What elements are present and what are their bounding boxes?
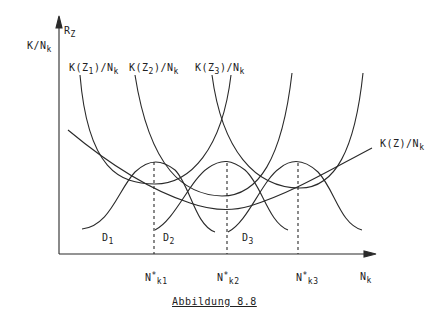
curve-label-envelope-sub: k xyxy=(419,143,424,152)
curve-label-z2-pre: K(Z xyxy=(129,62,149,73)
x-axis-arrow-icon xyxy=(364,251,376,257)
demand-label-d3: D3 xyxy=(242,233,254,246)
tick-label-nk1: N*k1 xyxy=(145,272,168,286)
curve-label-z1-pre: K(Z xyxy=(69,62,89,73)
demand-label-d3-sub: 3 xyxy=(249,237,254,246)
y-axis-label-main: K/Nk xyxy=(27,41,52,54)
x-label-sub: k xyxy=(367,276,372,285)
figure-caption: Abbildung 8.8 xyxy=(172,297,257,307)
tick-label-nk3: N*k3 xyxy=(296,272,319,286)
tick-label-nk1-sub: k1 xyxy=(157,277,168,286)
tick-label-nk2: N*k2 xyxy=(217,272,240,286)
curve-label-z3-post-sub: k xyxy=(239,67,244,76)
demand-label-d1-sub: 1 xyxy=(109,237,114,246)
demand-label-d2: D2 xyxy=(163,233,175,246)
curve-label-z2-post-sub: k xyxy=(173,67,178,76)
tick-label-nk3-sub: k3 xyxy=(308,277,319,286)
curve-label-z1-post-sub: k xyxy=(113,67,118,76)
curve-label-z1: K(Z1)/Nk xyxy=(69,63,119,76)
envelope-curve xyxy=(68,130,372,210)
y-axis-arrow-icon xyxy=(56,16,62,28)
demand-curve-d3 xyxy=(228,162,362,232)
curve-label-z2: K(Z2)/Nk xyxy=(129,63,179,76)
tick-label-nk2-sub: k2 xyxy=(229,277,240,286)
cost-curve-z3 xyxy=(212,73,363,188)
curve-label-z3-post: )/N xyxy=(220,62,240,73)
demand-label-d2-sub: 2 xyxy=(170,237,175,246)
y-label-main-text: K/N xyxy=(27,40,47,51)
demand-label-d1: D1 xyxy=(102,233,114,246)
curve-label-envelope: K(Z)/Nk xyxy=(380,139,424,152)
curve-label-z3: K(Z3)/Nk xyxy=(195,63,245,76)
y-label-main-sub: k xyxy=(47,45,52,54)
curve-label-envelope-pre: K(Z)/N xyxy=(380,138,419,149)
curve-label-z2-post: )/N xyxy=(154,62,174,73)
cost-curve-z2 xyxy=(135,73,292,196)
y-axis-label-top: RZ xyxy=(64,26,76,39)
y-label-top-sub: Z xyxy=(71,30,76,39)
x-axis-label: Nk xyxy=(360,272,372,285)
curve-label-z3-pre: K(Z xyxy=(195,62,215,73)
demand-curve-d1 xyxy=(82,162,215,232)
curve-label-z1-post: )/N xyxy=(94,62,114,73)
